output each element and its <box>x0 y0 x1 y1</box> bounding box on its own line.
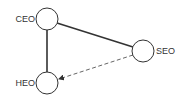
node-seo-circle <box>132 40 154 62</box>
node-heo-label: HEO <box>15 78 35 88</box>
node-heo-circle <box>36 72 58 94</box>
node-seo: SEO <box>132 40 175 62</box>
edge-ceo-seo <box>57 23 133 47</box>
edge-seo-heo-dashed-arrow <box>59 55 133 79</box>
node-ceo-circle <box>36 8 58 30</box>
node-ceo-label: CEO <box>15 14 35 24</box>
diagram-svg: CEO HEO SEO <box>0 0 187 100</box>
diagram-canvas: CEO HEO SEO <box>0 0 187 100</box>
node-heo: HEO <box>15 72 58 94</box>
node-seo-label: SEO <box>156 46 175 56</box>
node-ceo: CEO <box>15 8 58 30</box>
